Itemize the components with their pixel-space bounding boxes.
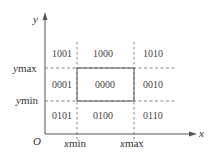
region-code-top-right: 1010: [143, 48, 163, 59]
region-code-middle-left: 0001: [52, 79, 72, 90]
y-axis-arrow-icon: [43, 12, 48, 20]
region-code-top-center: 1000: [93, 48, 113, 59]
region-code-diagram: y x O ymax ymin xmin xmax 1001 1000 1010…: [0, 0, 214, 156]
ymax-label-text: max: [18, 62, 37, 74]
ymin-label: ymin: [15, 94, 39, 106]
origin-label: O: [33, 135, 41, 147]
region-code-middle-right: 0010: [143, 79, 163, 90]
xmax-label: xmax: [119, 137, 144, 149]
y-axis-label: y: [32, 13, 38, 25]
region-code-center: 0000: [95, 79, 115, 90]
region-code-top-left: 1001: [52, 48, 72, 59]
ymax-label: ymax: [12, 62, 37, 74]
xmin-label-text: min: [69, 137, 87, 149]
ymin-label-text: min: [21, 94, 39, 106]
xmin-label: xmin: [63, 137, 87, 149]
region-code-bottom-left: 0101: [52, 110, 72, 121]
region-code-bottom-right: 0110: [143, 110, 163, 121]
x-axis-label: x: [198, 127, 204, 139]
x-axis-arrow-icon: [189, 132, 197, 137]
region-code-bottom-center: 0100: [93, 110, 113, 121]
xmax-label-text: max: [125, 137, 144, 149]
